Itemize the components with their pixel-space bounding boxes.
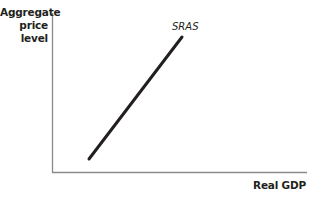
y-axis-label: Aggregate price level	[0, 6, 48, 45]
sras-curve	[89, 37, 182, 159]
y-axis-label-line-1: Aggregate	[0, 6, 48, 19]
sras-chart: Aggregate price level SRAS Real GDP	[0, 0, 322, 198]
sras-label: SRAS	[172, 21, 198, 33]
chart-plot	[0, 0, 322, 198]
x-axis-label: Real GDP	[253, 179, 306, 192]
y-axis-label-line-2: price level	[0, 19, 48, 45]
